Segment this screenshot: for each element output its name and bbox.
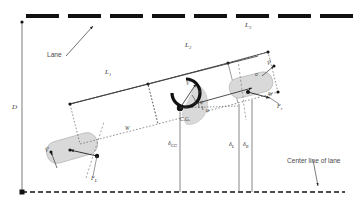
dimension-L1 — [70, 84, 148, 104]
delta-right-label: δR — [243, 141, 249, 150]
cg-label: C.G. — [180, 117, 190, 122]
lane-label: Lane — [47, 52, 62, 59]
dimension-label-D: D — [12, 104, 17, 111]
rear-vehicle — [44, 130, 100, 165]
dimension-label-L1: L1 — [105, 69, 111, 78]
lane-marker-group — [26, 14, 353, 18]
angle-phi-label: φ — [206, 108, 209, 113]
diagram-canvas: Lane Center line of lane D L1 L2 L3 C.G.… — [0, 0, 364, 211]
force-left-label: FL — [91, 175, 97, 184]
rear-force-leader — [93, 156, 97, 176]
dimension-L3 — [228, 52, 268, 63]
diagram-vector-layer — [0, 0, 364, 211]
velocity-front-label: →V — [267, 58, 272, 66]
dimension-label-L3: L3 — [245, 22, 251, 31]
width-label-left: W — [125, 126, 130, 131]
delta-left-label: δL — [229, 141, 234, 150]
delta-cg-label: δCG — [168, 140, 177, 149]
angle-alpha-label: α — [255, 72, 258, 77]
lane-callout-arrow — [66, 26, 93, 56]
dimension-label-L2: L2 — [185, 42, 191, 51]
velocity-cg-label: →V — [186, 78, 191, 86]
angle-theta-label: θ — [198, 90, 201, 95]
velocity-rear-label: →V — [45, 145, 50, 153]
width-label-right: W — [268, 92, 273, 97]
angle-psi-label: ψ — [200, 100, 203, 105]
force-right-label: Fr — [277, 103, 282, 112]
center-line-label: Center line of lane — [287, 158, 341, 165]
